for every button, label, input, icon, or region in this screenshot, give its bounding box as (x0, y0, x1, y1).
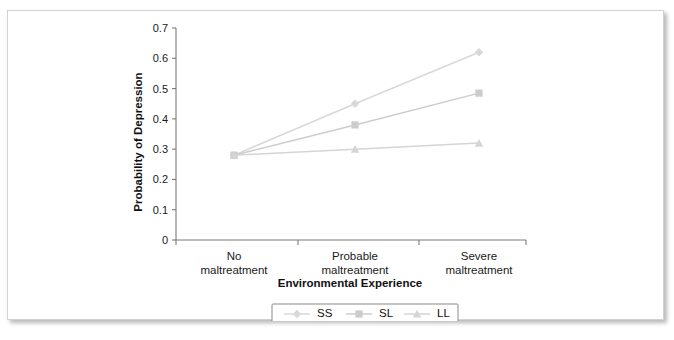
series-layer (230, 48, 483, 159)
series-ll (230, 139, 483, 159)
x-category-label: Probablemaltreatment (321, 250, 389, 276)
data-point-marker-square (351, 121, 358, 128)
y-tick-label: 0.7 (153, 22, 168, 34)
data-point-marker-diamond (351, 100, 359, 108)
series-ss (230, 48, 483, 159)
y-axis: 00.10.20.30.40.50.60.7 (153, 22, 176, 246)
legend-label-ll: LL (437, 307, 450, 319)
y-tick-label: 0.3 (153, 143, 168, 155)
y-tick-label: 0 (162, 234, 168, 246)
line-chart-figure: 00.10.20.30.40.50.60.7 NomaltreatmentPro… (8, 11, 665, 321)
y-tick-label: 0.4 (153, 113, 168, 125)
figure-frame: 00.10.20.30.40.50.60.7 NomaltreatmentPro… (7, 10, 664, 320)
y-tick-label: 0.6 (153, 52, 168, 64)
x-category-label: Severemaltreatment (445, 250, 513, 276)
legend-label-sl: SL (379, 307, 394, 319)
data-point-marker-square (475, 90, 482, 97)
data-point-marker-diamond (475, 48, 483, 56)
chart-svg: 00.10.20.30.40.50.60.7 NomaltreatmentPro… (8, 11, 665, 321)
y-tick-label: 0.2 (153, 173, 168, 185)
x-category-label: Nomaltreatment (200, 250, 268, 276)
y-tick-label: 0.1 (153, 204, 168, 216)
x-axis-title: Environmental Experience (278, 277, 422, 289)
y-tick-label: 0.5 (153, 83, 168, 95)
data-point-marker-square (355, 310, 362, 317)
legend-label-ss: SS (317, 307, 333, 319)
legend-box (272, 304, 458, 321)
chart-legend[interactable]: SSSLLL (272, 304, 458, 321)
x-axis: NomaltreatmentProbablemaltreatmentSevere… (176, 240, 526, 276)
y-axis-title: Probability of Depression (132, 72, 144, 211)
